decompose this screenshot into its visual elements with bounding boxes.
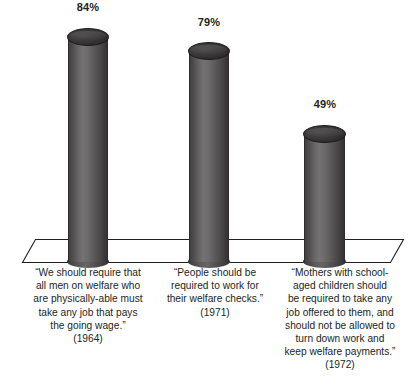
cylinder-bar-3-body <box>304 134 345 262</box>
caption-1-year: (1964) <box>18 332 158 345</box>
caption-2-line-2: required to work for <box>153 279 277 292</box>
caption-2-line-3: their welfare checks.” <box>153 292 277 305</box>
caption-3-line-7: keep welfare payments.” <box>272 345 408 358</box>
caption-1-line-4: take any job that pays <box>18 306 158 319</box>
category-caption-2: “People should be required to work for t… <box>153 266 277 319</box>
caption-1-line-5: the going wage.” <box>18 319 158 332</box>
category-caption-3: “Mothers with school- aged children shou… <box>272 266 408 372</box>
caption-3-line-1: “Mothers with school- <box>272 266 408 279</box>
cylinder-bar-2 <box>189 42 229 262</box>
cylinder-bar-2-body <box>189 51 229 262</box>
caption-3-line-2: aged children should <box>272 279 408 292</box>
caption-1-line-2: all men on welfare who <box>18 279 158 292</box>
caption-2-line-1: “People should be <box>153 266 277 279</box>
caption-3-year: (1972) <box>272 358 408 371</box>
caption-1-line-1: “We should require that <box>18 266 158 279</box>
caption-1-line-3: are physically-able must <box>18 292 158 305</box>
value-label-bar-1: 84% <box>58 1 118 13</box>
cylinder-bar-3 <box>304 125 345 262</box>
caption-3-line-6: turn down work and <box>272 332 408 345</box>
cylinder-bar-chart: 84% 79% 49% “We should require that all … <box>0 0 413 388</box>
value-label-bar-2: 79% <box>179 16 239 28</box>
caption-2-year: (1971) <box>153 306 277 319</box>
cylinder-bar-3-cap <box>303 125 346 143</box>
category-caption-1: “We should require that all men on welfa… <box>18 266 158 345</box>
caption-3-line-5: should not be allowed to <box>272 319 408 332</box>
caption-3-line-3: be required to take any <box>272 292 408 305</box>
caption-3-line-4: job offered to them, and <box>272 306 408 319</box>
cylinder-bar-1-cap <box>67 28 109 46</box>
cylinder-bar-1 <box>68 28 108 262</box>
cylinder-bar-1-body <box>68 37 108 262</box>
cylinder-bar-2-cap <box>188 42 230 60</box>
value-label-bar-3: 49% <box>295 98 355 110</box>
